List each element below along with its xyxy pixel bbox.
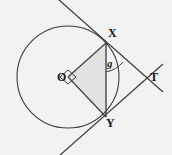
angle-label-g: g bbox=[107, 58, 113, 69]
point-label-x: X bbox=[108, 27, 117, 39]
point-label-o: O bbox=[57, 71, 66, 83]
shaded-triangle-oxy bbox=[68, 43, 106, 117]
geometry-figure: O X Y T g bbox=[0, 0, 172, 155]
point-label-t: T bbox=[150, 71, 158, 83]
point-label-y: Y bbox=[106, 117, 115, 129]
figure-canvas bbox=[0, 0, 172, 155]
